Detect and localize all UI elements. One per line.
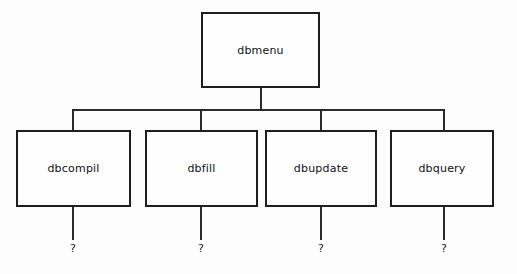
edge-horizontal-bus — [73, 109, 444, 111]
node-dbupdate-label: dbupdate — [294, 163, 348, 174]
diagram-canvas: dbmenu dbcompil ? dbfill ? dbupdate ? db… — [0, 0, 517, 274]
edge-stub-dbupdate — [320, 207, 322, 240]
node-dbmenu[interactable]: dbmenu — [201, 12, 320, 88]
unknown-marker-dbfill: ? — [198, 243, 204, 254]
unknown-marker-dbupdate: ? — [318, 243, 324, 254]
node-dbfill[interactable]: dbfill — [145, 130, 258, 207]
unknown-marker-dbcompil: ? — [70, 243, 76, 254]
node-dbupdate[interactable]: dbupdate — [265, 130, 377, 207]
edge-stub-dbfill — [200, 207, 202, 240]
node-dbcompil-label: dbcompil — [47, 163, 99, 174]
node-dbquery[interactable]: dbquery — [390, 130, 494, 207]
unknown-marker-dbquery: ? — [441, 243, 447, 254]
node-dbmenu-label: dbmenu — [237, 45, 284, 56]
edge-root-stem — [260, 88, 262, 109]
edge-drop-dbquery — [443, 109, 445, 130]
node-dbfill-label: dbfill — [187, 163, 215, 174]
edge-drop-dbcompil — [72, 109, 74, 130]
edge-drop-dbfill — [200, 109, 202, 130]
node-dbquery-label: dbquery — [418, 163, 465, 174]
node-dbcompil[interactable]: dbcompil — [16, 130, 131, 207]
edge-drop-dbupdate — [320, 109, 322, 130]
edge-stub-dbquery — [443, 207, 445, 240]
edge-stub-dbcompil — [72, 207, 74, 240]
